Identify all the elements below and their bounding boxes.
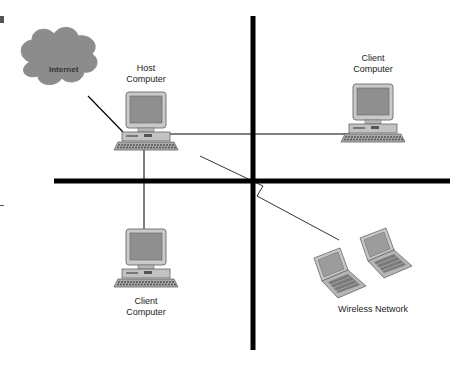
client-bottom-computer-label: Client Computer <box>120 296 172 318</box>
edge-mark <box>0 205 4 206</box>
internet-label: Internet <box>49 65 78 74</box>
client-top-label-line2: Computer <box>346 64 400 75</box>
host-label-line2: Computer <box>120 74 172 85</box>
laptop-icon <box>360 228 412 278</box>
client-top-computer-icon <box>341 84 405 142</box>
client-top-computer-label: Client Computer <box>346 53 400 75</box>
internet-to-host-link <box>88 96 123 132</box>
laptop-icon <box>314 248 366 298</box>
wireless-link <box>200 156 339 240</box>
host-label-line1: Host <box>120 63 172 74</box>
host-computer-icon <box>114 92 178 150</box>
client-bottom-label-line2: Computer <box>120 307 172 318</box>
client-bottom-computer-icon <box>114 229 178 287</box>
internet-cloud-icon <box>21 27 97 84</box>
client-bottom-label-line1: Client <box>120 296 172 307</box>
client-top-label-line1: Client <box>346 53 400 64</box>
wireless-network-label: Wireless Network <box>338 304 408 315</box>
host-computer-label: Host Computer <box>120 63 172 85</box>
edge-mark <box>0 16 4 23</box>
